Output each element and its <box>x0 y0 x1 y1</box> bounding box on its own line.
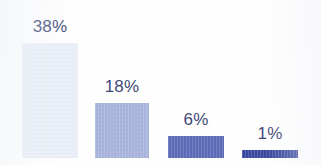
bar-value-label-3: 6% <box>184 111 209 128</box>
bar-4 <box>242 150 298 158</box>
bar-group-4: 1% <box>242 150 298 158</box>
bar-3 <box>168 136 224 158</box>
bar-1 <box>22 43 78 158</box>
bar-2 <box>95 103 149 158</box>
bar-group-1: 38% <box>22 43 78 158</box>
bar-group-3: 6% <box>168 136 224 158</box>
plot-area: 38% 18% 6% 1% <box>0 0 321 165</box>
bar-group-2: 18% <box>95 103 149 158</box>
bar-value-label-1: 38% <box>33 18 68 35</box>
bar-value-label-2: 18% <box>105 78 140 95</box>
bar-chart: 38% 18% 6% 1% <box>0 0 321 165</box>
bar-value-label-4: 1% <box>258 125 283 142</box>
